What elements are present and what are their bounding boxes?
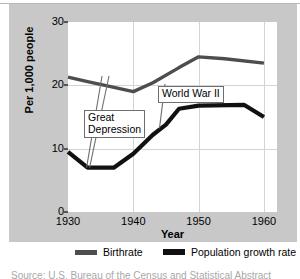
x-axis-title: Year bbox=[68, 228, 277, 240]
annotation-world-war-2-line1: World War II bbox=[162, 88, 220, 100]
chart-legend: Birthrate Population growth rate bbox=[9, 245, 297, 263]
y-tick-label-20: 20 bbox=[52, 79, 64, 90]
x-tick-label-1940: 1940 bbox=[121, 215, 145, 227]
legend-swatch-population-growth-rate bbox=[163, 249, 185, 255]
annotation-great-depression: Great Depression bbox=[84, 110, 145, 138]
y-tick-label-30: 30 bbox=[52, 16, 64, 27]
y-tick-label-10: 10 bbox=[52, 143, 64, 154]
legend-label-population-growth-rate: Population growth rate bbox=[191, 246, 296, 258]
legend-label-birthrate: Birthrate bbox=[103, 246, 143, 258]
x-tick-label-1930: 1930 bbox=[56, 215, 80, 227]
annotation-world-war-2: World War II bbox=[158, 86, 224, 103]
legend-entry-population-growth-rate: Population growth rate bbox=[163, 245, 296, 259]
chart-panel: Per 1,000 people 30 20 10 0 bbox=[9, 4, 297, 242]
plot-area: Great Depression World War II bbox=[68, 22, 277, 212]
x-tick-label-1960: 1960 bbox=[252, 215, 276, 227]
y-axis-tick-labels: 30 20 10 0 bbox=[29, 4, 64, 242]
legend-swatch-birthrate bbox=[75, 250, 97, 255]
annotation-great-depression-line1: Great bbox=[88, 112, 141, 124]
chart-figure: Per 1,000 people 30 20 10 0 bbox=[0, 0, 300, 279]
source-note: Source: U.S. Bureau of the Census and St… bbox=[11, 270, 291, 279]
annotation-great-depression-line2: Depression bbox=[88, 124, 141, 136]
legend-entry-birthrate: Birthrate bbox=[75, 245, 143, 259]
x-tick-label-1950: 1950 bbox=[186, 215, 210, 227]
